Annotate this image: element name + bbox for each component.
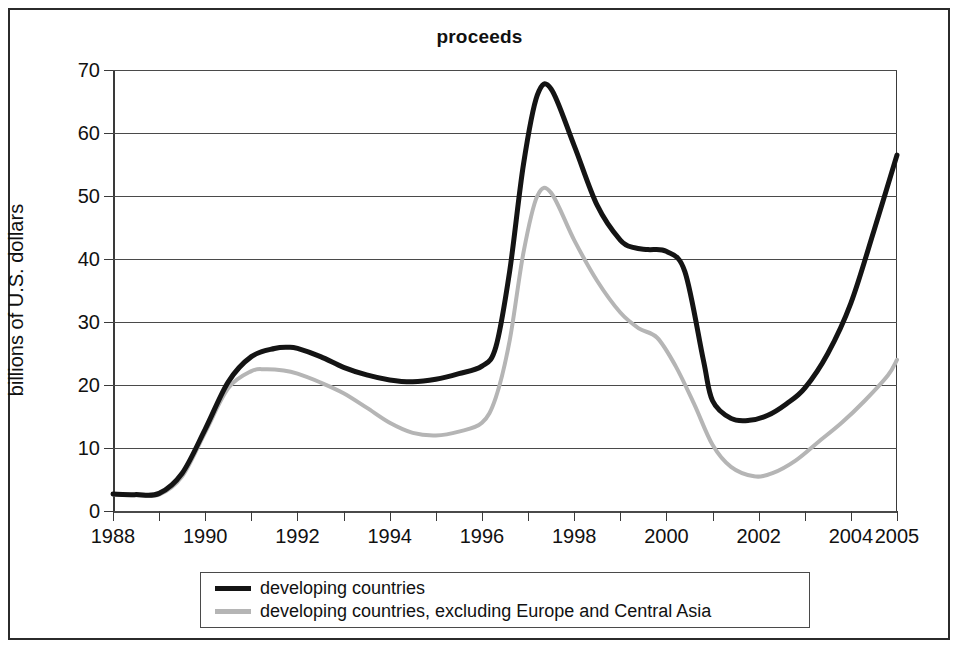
x-tick-mark bbox=[436, 511, 437, 521]
series-line bbox=[113, 84, 897, 495]
x-tick-mark bbox=[620, 511, 621, 521]
legend-label: developing countries, excluding Europe a… bbox=[260, 601, 711, 622]
y-tick-label: 10 bbox=[78, 437, 100, 460]
x-tick-label: 2002 bbox=[736, 525, 781, 548]
x-tick-mark bbox=[159, 511, 160, 521]
x-tick-mark bbox=[897, 511, 898, 521]
legend-swatch bbox=[215, 609, 251, 614]
y-tick-label: 50 bbox=[78, 185, 100, 208]
y-tick-mark bbox=[104, 70, 113, 71]
y-tick-mark bbox=[104, 196, 113, 197]
x-tick-mark bbox=[666, 511, 667, 521]
x-tick-label: 1996 bbox=[460, 525, 505, 548]
x-tick-mark bbox=[251, 511, 252, 521]
y-axis-title: billions of U.S. dollars bbox=[5, 204, 28, 396]
x-tick-label: 1990 bbox=[183, 525, 228, 548]
y-tick-label: 70 bbox=[78, 59, 100, 82]
x-tick-mark bbox=[297, 511, 298, 521]
x-tick-label: 1994 bbox=[367, 525, 412, 548]
x-tick-label: 1988 bbox=[91, 525, 136, 548]
legend-item: developing countries bbox=[215, 577, 809, 600]
y-tick-label: 40 bbox=[78, 248, 100, 271]
x-tick-mark bbox=[574, 511, 575, 521]
y-tick-label: 60 bbox=[78, 122, 100, 145]
plot-area: 010203040506070 198819901992199419961998… bbox=[113, 70, 897, 511]
series-layer bbox=[113, 70, 897, 511]
x-tick-mark bbox=[759, 511, 760, 521]
x-tick-label: 1992 bbox=[275, 525, 320, 548]
x-tick-label: 1998 bbox=[552, 525, 597, 548]
x-tick-label: 2000 bbox=[644, 525, 689, 548]
x-tick-mark bbox=[205, 511, 206, 521]
x-tick-mark bbox=[851, 511, 852, 521]
legend: developing countriesdeveloping countries… bbox=[200, 572, 810, 628]
chart-figure: proceeds billions of U.S. dollars 010203… bbox=[0, 0, 959, 650]
x-axis-line bbox=[113, 511, 897, 513]
x-tick-mark bbox=[805, 511, 806, 521]
y-tick-mark bbox=[104, 259, 113, 260]
y-tick-mark bbox=[104, 448, 113, 449]
y-tick-mark bbox=[104, 385, 113, 386]
x-tick-label: 2005 bbox=[875, 525, 920, 548]
chart-title: proceeds bbox=[0, 26, 959, 48]
x-tick-mark bbox=[344, 511, 345, 521]
x-tick-mark bbox=[482, 511, 483, 521]
y-tick-label: 30 bbox=[78, 311, 100, 334]
legend-swatch bbox=[215, 586, 251, 591]
x-tick-mark bbox=[713, 511, 714, 521]
y-tick-mark bbox=[104, 511, 113, 512]
x-tick-mark bbox=[390, 511, 391, 521]
x-tick-mark bbox=[113, 511, 114, 521]
y-tick-mark bbox=[104, 133, 113, 134]
series-line bbox=[113, 188, 897, 496]
legend-label: developing countries bbox=[260, 578, 425, 599]
x-tick-label: 2004 bbox=[829, 525, 874, 548]
x-tick-mark bbox=[528, 511, 529, 521]
legend-item: developing countries, excluding Europe a… bbox=[215, 600, 809, 623]
y-tick-label: 0 bbox=[89, 500, 100, 523]
y-tick-mark bbox=[104, 322, 113, 323]
y-tick-label: 20 bbox=[78, 374, 100, 397]
